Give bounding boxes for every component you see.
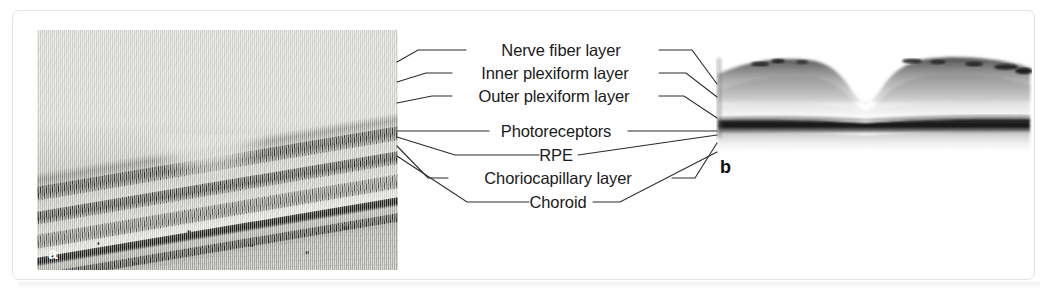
panel-b-caption-label: b — [720, 158, 731, 176]
figure-drop-shadow — [18, 282, 1040, 289]
oct-choroid-band — [718, 131, 1030, 151]
annotation-label-inner-plexiform-layer: Inner plexiform layer — [481, 65, 628, 82]
annotation-label-outer-plexiform-layer: Outer plexiform layer — [478, 88, 629, 105]
annotation-label-choroid: Choroid — [529, 194, 586, 211]
oct-left-edge-artifact — [716, 58, 722, 138]
panel-a-caption-label: a — [48, 245, 57, 262]
annotation-label-nerve-fiber-layer: Nerve fiber layer — [501, 42, 620, 59]
annotation-label-photoreceptors: Photoreceptors — [501, 123, 612, 140]
panel-a-histology-image: a — [37, 30, 398, 270]
histology-grain-overlay — [37, 30, 398, 270]
oct-scan-graphic — [716, 44, 1032, 160]
annotation-label-rpe: RPE — [539, 147, 573, 164]
annotation-label-choriocapillary-layer: Choriocapillary layer — [484, 170, 631, 187]
panel-b-oct-image — [716, 44, 1032, 160]
